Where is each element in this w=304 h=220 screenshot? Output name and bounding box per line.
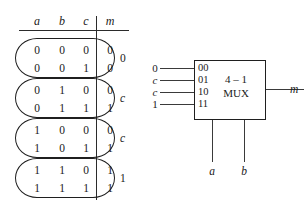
cell-c: 1 bbox=[76, 138, 96, 158]
cell-a: 0 bbox=[27, 40, 47, 60]
select-wire-a bbox=[212, 120, 213, 162]
cell-m: 1 bbox=[100, 178, 120, 198]
cell-b: 1 bbox=[52, 178, 72, 198]
input-wire-01 bbox=[160, 80, 194, 81]
cell-a: 0 bbox=[27, 98, 47, 118]
cell-c: 0 bbox=[76, 120, 96, 140]
input-label-11: 1 bbox=[150, 98, 160, 110]
group-label: c bbox=[120, 130, 138, 146]
cell-a: 1 bbox=[27, 138, 47, 158]
cell-a: 1 bbox=[27, 160, 47, 180]
cell-c: 0 bbox=[76, 40, 96, 60]
cell-c: 1 bbox=[76, 178, 96, 198]
cell-m: 1 bbox=[100, 160, 120, 180]
mux-select-code-10: 10 bbox=[198, 86, 216, 98]
mux-title: 4 – 1 bbox=[212, 72, 260, 86]
table-row: 1 0 1 1 bbox=[0, 138, 132, 158]
input-label-10: c bbox=[150, 86, 160, 98]
cell-a: 0 bbox=[27, 80, 47, 100]
cell-b: 0 bbox=[52, 40, 72, 60]
cell-c: 0 bbox=[76, 80, 96, 100]
cell-m: 0 bbox=[100, 120, 120, 140]
cell-m: 0 bbox=[100, 80, 120, 100]
input-label-00: 0 bbox=[150, 62, 160, 74]
column-header-m: m bbox=[100, 13, 120, 29]
group-label: 1 bbox=[120, 170, 138, 186]
column-header-b: b bbox=[52, 13, 72, 29]
mux-subtitle: MUX bbox=[212, 86, 260, 100]
table-row: 0 0 1 0 bbox=[0, 58, 132, 78]
cell-m: 1 bbox=[100, 98, 120, 118]
cell-c: 1 bbox=[76, 98, 96, 118]
cell-b: 0 bbox=[52, 58, 72, 78]
table-row: 1 1 1 1 bbox=[0, 178, 132, 198]
group-label: c bbox=[120, 90, 138, 106]
select-label-b: b bbox=[237, 164, 251, 178]
cell-a: 1 bbox=[27, 178, 47, 198]
mux-schematic: 4 – 1 MUX 00 01 10 11 0 c c 1 m a b bbox=[150, 0, 304, 220]
output-label-m: m bbox=[290, 83, 304, 96]
mux-select-code-01: 01 bbox=[198, 74, 216, 86]
table-row: 0 0 0 0 bbox=[0, 40, 132, 60]
group-label: 0 bbox=[120, 50, 138, 66]
mux-select-code-00: 00 bbox=[198, 62, 216, 74]
table-row: 1 1 0 1 bbox=[0, 160, 132, 180]
input-wire-00 bbox=[160, 68, 194, 69]
input-wire-11 bbox=[160, 104, 194, 105]
cell-m: 0 bbox=[100, 40, 120, 60]
cell-a: 1 bbox=[27, 120, 47, 140]
figure-mux-implementation: a b c m 0 0 0 0 0 0 1 0 0 1 0 0 bbox=[0, 0, 304, 220]
cell-b: 1 bbox=[52, 160, 72, 180]
cell-b: 0 bbox=[52, 138, 72, 158]
table-row: 0 1 1 1 bbox=[0, 98, 132, 118]
table-row: 0 1 0 0 bbox=[0, 80, 132, 100]
select-wire-b bbox=[244, 120, 245, 162]
column-header-a: a bbox=[27, 13, 47, 29]
truth-table: a b c m 0 0 0 0 0 0 1 0 0 1 0 0 bbox=[0, 0, 150, 220]
cell-c: 1 bbox=[76, 58, 96, 78]
cell-b: 1 bbox=[52, 80, 72, 100]
header-rule bbox=[19, 30, 129, 31]
truth-table-header-row: a b c m bbox=[0, 13, 132, 29]
cell-b: 1 bbox=[52, 98, 72, 118]
cell-c: 0 bbox=[76, 160, 96, 180]
cell-m: 0 bbox=[100, 58, 120, 78]
input-wire-10 bbox=[160, 92, 194, 93]
cell-m: 1 bbox=[100, 138, 120, 158]
table-row: 1 0 0 0 bbox=[0, 120, 132, 140]
cell-a: 0 bbox=[27, 58, 47, 78]
input-label-01: c bbox=[150, 74, 160, 86]
mux-select-code-11: 11 bbox=[198, 98, 216, 110]
select-label-a: a bbox=[205, 164, 219, 178]
column-header-c: c bbox=[76, 13, 96, 29]
cell-b: 0 bbox=[52, 120, 72, 140]
